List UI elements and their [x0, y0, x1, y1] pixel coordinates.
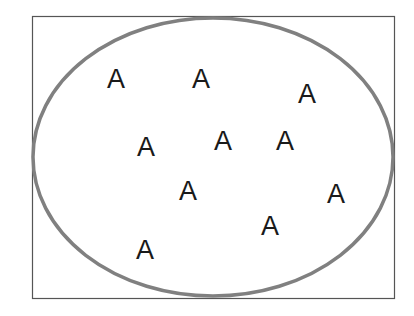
- set-elements: A A A A A A A A A A: [107, 64, 345, 265]
- set-ellipse: [33, 18, 393, 296]
- set-element: A: [276, 126, 294, 156]
- set-element: A: [107, 64, 125, 94]
- set-element: A: [137, 132, 155, 162]
- set-element: A: [179, 176, 197, 206]
- set-element: A: [214, 126, 232, 156]
- set-element: A: [261, 211, 279, 241]
- set-element: A: [327, 179, 345, 209]
- set-element: A: [192, 64, 210, 94]
- set-element: A: [298, 79, 316, 109]
- set-element: A: [136, 235, 154, 265]
- set-diagram: A A A A A A A A A A: [0, 0, 414, 316]
